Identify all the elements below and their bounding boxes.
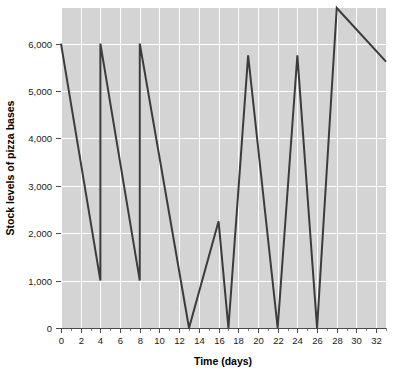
- y-tick-label: 4,000: [28, 133, 52, 144]
- chart-figure: 01,0002,0003,0004,0005,0006,000 02468101…: [0, 0, 395, 370]
- x-tick-label: 28: [332, 335, 343, 346]
- x-tick-label: 4: [98, 335, 103, 346]
- x-tick-label: 16: [214, 335, 225, 346]
- y-tick-label: 3,000: [28, 181, 52, 192]
- x-tick-label: 6: [118, 335, 123, 346]
- x-tick-label: 0: [59, 335, 64, 346]
- x-tick-label: 26: [312, 335, 323, 346]
- x-tick-label: 30: [351, 335, 362, 346]
- y-tick-label: 5,000: [28, 86, 52, 97]
- x-tick-label: 18: [233, 335, 244, 346]
- y-tick-label: 0: [47, 323, 52, 334]
- x-tick-label: 32: [371, 335, 382, 346]
- y-tick-label: 2,000: [28, 228, 52, 239]
- x-tick-label: 24: [292, 335, 303, 346]
- x-tick-label: 14: [194, 335, 205, 346]
- line-chart: 01,0002,0003,0004,0005,0006,000 02468101…: [0, 0, 395, 370]
- x-tick-label: 22: [273, 335, 284, 346]
- x-tick-label: 12: [174, 335, 185, 346]
- y-axis-title: Stock levels of pizza bases: [4, 100, 16, 235]
- x-tick-label: 10: [154, 335, 165, 346]
- y-tick-label: 1,000: [28, 276, 52, 287]
- x-axis-title: Time (days): [194, 355, 252, 367]
- y-tick-label: 6,000: [28, 39, 52, 50]
- x-tick-label: 2: [79, 335, 84, 346]
- x-tick-label: 20: [253, 335, 264, 346]
- x-tick-label: 8: [138, 335, 143, 346]
